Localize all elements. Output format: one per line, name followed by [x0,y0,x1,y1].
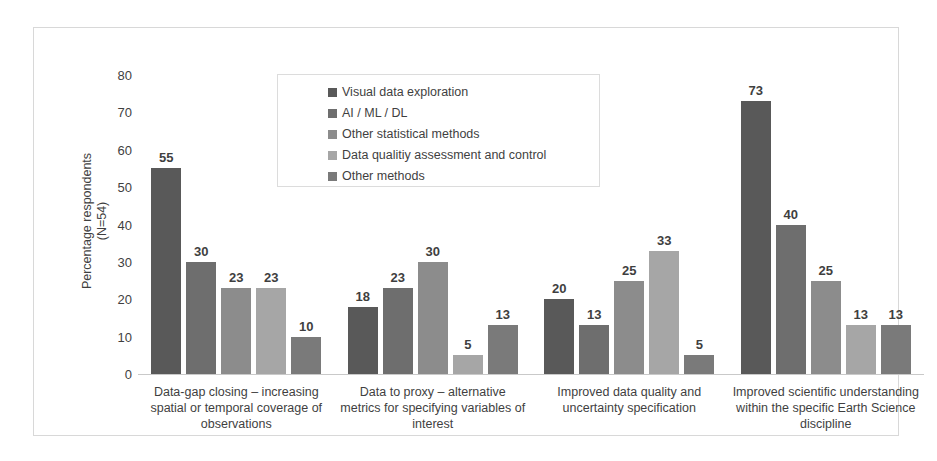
bar-slot: 30 [186,75,216,374]
legend-label: AI / ML / DL [342,106,408,120]
y-tick-label: 20 [102,292,132,307]
bar-slot: 5 [684,75,714,374]
bar[interactable] [811,281,841,374]
legend-label: Data qualitiy assessment and control [342,148,546,162]
bar-value-label: 73 [749,83,763,98]
y-tick-label: 10 [102,329,132,344]
legend-label: Other methods [342,169,425,183]
legend-item[interactable]: AI / ML / DL [328,103,599,123]
legend-swatch-icon [328,151,337,160]
bar[interactable] [488,325,518,374]
legend-item[interactable]: Other methods [328,166,599,186]
bar-value-label: 18 [356,289,370,304]
bar-value-label: 55 [159,150,173,165]
bar[interactable] [151,168,181,374]
y-tick-label: 60 [102,142,132,157]
bar-slot: 13 [846,75,876,374]
bar-slot: 73 [741,75,771,374]
bar-value-label: 33 [657,233,671,248]
legend-label: Visual data exploration [342,85,468,99]
bar[interactable] [579,325,609,374]
legend-swatch-icon [328,172,337,181]
x-category-label: Data-gap closing – increasing spatial or… [138,384,335,432]
bar-value-label: 30 [194,244,208,259]
x-category-label: Improved scientific understanding within… [728,384,925,432]
x-category-label: Improved data quality and uncertainty sp… [531,384,728,432]
bar[interactable] [186,262,216,374]
bar-value-label: 13 [496,307,510,322]
bar-slot: 25 [811,75,841,374]
legend-swatch-icon [328,130,337,139]
y-tick-label: 50 [102,180,132,195]
bar[interactable] [846,325,876,374]
bar[interactable] [348,307,378,374]
bar-value-label: 25 [622,263,636,278]
bar-value-label: 23 [229,270,243,285]
bar-slot: 23 [221,75,251,374]
legend-item[interactable]: Data qualitiy assessment and control [328,145,599,165]
bar-value-label: 25 [819,263,833,278]
x-category-label: Data to proxy – alternative metrics for … [335,384,532,432]
bar-value-label: 23 [264,270,278,285]
bar[interactable] [614,281,644,374]
bar-value-label: 13 [854,307,868,322]
bar[interactable] [741,101,771,374]
y-tick-label: 0 [102,367,132,382]
bar-group: 7340251313 [728,75,925,374]
bar-value-label: 5 [696,337,703,352]
bar[interactable] [256,288,286,374]
bar-slot: 55 [151,75,181,374]
bar-value-label: 20 [552,281,566,296]
bar-value-label: 13 [889,307,903,322]
bar[interactable] [776,225,806,375]
bar-slot: 25 [614,75,644,374]
bar[interactable] [881,325,911,374]
bar-value-label: 5 [464,337,471,352]
bar-slot: 33 [649,75,679,374]
legend-swatch-icon [328,109,337,118]
bar[interactable] [383,288,413,374]
bar[interactable] [291,337,321,374]
bar-value-label: 40 [784,207,798,222]
bar[interactable] [544,299,574,374]
bar[interactable] [649,251,679,374]
bar-slot: 13 [881,75,911,374]
y-tick-label: 40 [102,217,132,232]
bar-value-label: 13 [587,307,601,322]
bar-value-label: 10 [299,319,313,334]
chart-legend: Visual data explorationAI / ML / DLOther… [277,74,600,187]
y-tick-label: 80 [102,68,132,83]
y-axis-tick-labels: 80706050403020100 [96,75,132,374]
bar-slot: 40 [776,75,806,374]
legend-item[interactable]: Other statistical methods [328,124,599,144]
bar[interactable] [684,355,714,374]
legend-swatch-icon [328,88,337,97]
x-axis-line [138,374,924,375]
y-tick-label: 30 [102,254,132,269]
legend-item[interactable]: Visual data exploration [328,82,599,102]
x-axis-category-labels: Data-gap closing – increasing spatial or… [138,384,924,432]
bar[interactable] [221,288,251,374]
bar[interactable] [453,355,483,374]
chart-frame: Percentage respondents (N=54) 8070605040… [33,27,899,436]
bar[interactable] [418,262,448,374]
y-tick-label: 70 [102,105,132,120]
bar-value-label: 23 [391,270,405,285]
bar-value-label: 30 [426,244,440,259]
legend-label: Other statistical methods [342,127,480,141]
